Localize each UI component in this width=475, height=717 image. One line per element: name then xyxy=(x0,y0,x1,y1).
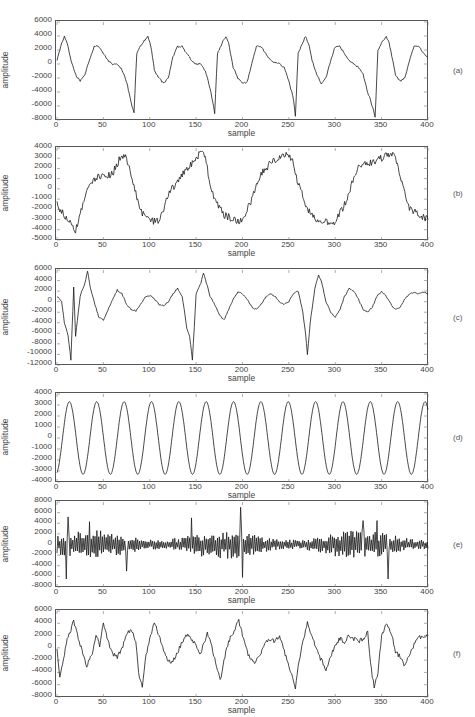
x-tick-label: 150 xyxy=(183,366,207,374)
y-tick-label: -10000 xyxy=(8,348,52,356)
y-tick-label: -6000 xyxy=(8,100,52,108)
x-tick-label: 250 xyxy=(276,366,300,374)
y-tick-label: -2000 xyxy=(8,654,52,662)
x-tick-label: 300 xyxy=(322,483,346,491)
x-tick-label: 150 xyxy=(183,241,207,249)
y-tick-label: -1000 xyxy=(8,443,52,451)
y-tick-label: 1000 xyxy=(8,173,52,181)
y-tick-label: 4000 xyxy=(8,388,52,396)
waveform-line xyxy=(56,610,429,698)
x-tick-label: 300 xyxy=(322,366,346,374)
y-axis-label: amplitude xyxy=(0,287,10,347)
y-tick-label: 4000 xyxy=(8,142,52,150)
x-tick-label: 350 xyxy=(369,483,393,491)
x-tick-label: 350 xyxy=(369,588,393,596)
y-tick-label: -6000 xyxy=(8,679,52,687)
x-tick-label: 0 xyxy=(44,121,68,129)
y-tick-label: -4000 xyxy=(8,317,52,325)
y-tick-label: 6000 xyxy=(8,605,52,613)
x-axis-label: sample xyxy=(212,373,272,383)
y-tick-label: -3000 xyxy=(8,214,52,222)
y-tick-label: 8000 xyxy=(8,496,52,504)
y-tick-label: 0 xyxy=(8,183,52,191)
x-tick-label: 350 xyxy=(369,366,393,374)
x-tick-label: 300 xyxy=(322,121,346,129)
plot-area xyxy=(55,268,428,365)
y-tick-label: 6000 xyxy=(8,16,52,24)
waveform-line xyxy=(56,147,429,241)
y-tick-label: -4000 xyxy=(8,560,52,568)
x-axis-label: sample xyxy=(212,595,272,605)
y-tick-label: -6000 xyxy=(8,327,52,335)
y-tick-label: 6000 xyxy=(8,507,52,515)
x-tick-label: 300 xyxy=(322,241,346,249)
panel-tag: (e) xyxy=(453,540,463,549)
y-tick-label: -8000 xyxy=(8,338,52,346)
x-tick-label: 50 xyxy=(90,121,114,129)
y-tick-label: -6000 xyxy=(8,570,52,578)
y-tick-label: 1000 xyxy=(8,421,52,429)
x-tick-label: 150 xyxy=(183,698,207,706)
x-tick-label: 250 xyxy=(276,483,300,491)
y-tick-label: 2000 xyxy=(8,285,52,293)
x-axis-label: sample xyxy=(212,490,272,500)
x-tick-label: 250 xyxy=(276,698,300,706)
y-axis-label: amplitude xyxy=(0,623,10,683)
y-tick-label: 2000 xyxy=(8,410,52,418)
panel-tag: (b) xyxy=(453,189,463,198)
x-tick-label: 0 xyxy=(44,698,68,706)
x-tick-label: 0 xyxy=(44,588,68,596)
x-tick-label: 50 xyxy=(90,483,114,491)
plot-area xyxy=(55,146,428,240)
y-tick-label: -2000 xyxy=(8,203,52,211)
y-tick-label: 3000 xyxy=(8,152,52,160)
panel-tag: (c) xyxy=(453,313,462,322)
y-tick-label: 0 xyxy=(8,432,52,440)
y-tick-label: 4000 xyxy=(8,517,52,525)
y-tick-label: -2000 xyxy=(8,306,52,314)
y-axis-label: amplitude xyxy=(0,163,10,223)
x-tick-label: 400 xyxy=(415,588,439,596)
x-tick-label: 150 xyxy=(183,121,207,129)
plot-area xyxy=(55,392,428,482)
y-axis-label: amplitude xyxy=(0,40,10,100)
x-tick-label: 50 xyxy=(90,698,114,706)
y-tick-label: 0 xyxy=(8,642,52,650)
x-tick-label: 0 xyxy=(44,483,68,491)
waveform-line xyxy=(56,269,429,366)
x-axis-label: sample xyxy=(212,128,272,138)
x-tick-label: 0 xyxy=(44,366,68,374)
y-tick-label: 0 xyxy=(8,58,52,66)
x-tick-label: 300 xyxy=(322,698,346,706)
waveform-line xyxy=(56,393,429,483)
x-tick-label: 150 xyxy=(183,588,207,596)
plot-area xyxy=(55,20,428,120)
y-tick-label: -2000 xyxy=(8,549,52,557)
y-tick-label: -4000 xyxy=(8,224,52,232)
y-tick-label: 6000 xyxy=(8,264,52,272)
x-tick-label: 100 xyxy=(137,121,161,129)
x-tick-label: 100 xyxy=(137,241,161,249)
plot-area xyxy=(55,500,428,587)
x-tick-label: 50 xyxy=(90,366,114,374)
x-tick-label: 100 xyxy=(137,588,161,596)
y-tick-label: 2000 xyxy=(8,44,52,52)
x-tick-label: 250 xyxy=(276,588,300,596)
x-tick-label: 300 xyxy=(322,588,346,596)
x-tick-label: 50 xyxy=(90,588,114,596)
y-tick-label: 2000 xyxy=(8,528,52,536)
x-tick-label: 400 xyxy=(415,698,439,706)
y-tick-label: 3000 xyxy=(8,399,52,407)
x-axis-label: sample xyxy=(212,248,272,258)
y-tick-label: -4000 xyxy=(8,86,52,94)
y-tick-label: 2000 xyxy=(8,162,52,170)
panel-tag: (a) xyxy=(453,66,463,75)
x-tick-label: 250 xyxy=(276,121,300,129)
x-tick-label: 400 xyxy=(415,366,439,374)
x-tick-label: 50 xyxy=(90,241,114,249)
y-axis-label: amplitude xyxy=(0,407,10,467)
waveform-line xyxy=(56,21,429,121)
x-tick-label: 150 xyxy=(183,483,207,491)
x-tick-label: 350 xyxy=(369,241,393,249)
x-tick-label: 400 xyxy=(415,483,439,491)
